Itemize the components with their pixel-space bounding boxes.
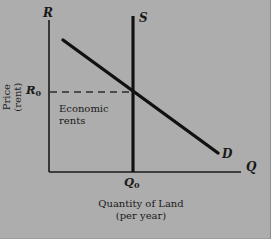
economic-rents-line2: rents: [59, 115, 135, 127]
y-axis-title: Price (rent): [1, 66, 23, 128]
equilibrium-price-label: R0: [26, 84, 41, 96]
economic-rents-figure: R Q S D R0 Q0 Price (rent) Economic rent…: [0, 0, 271, 239]
x-axis-title-line1: Quantity of Land: [46, 198, 236, 210]
x-axis-title-line2: (per year): [46, 210, 236, 222]
y-axis-title-line2: (rent): [12, 66, 23, 128]
x-axis-tip-label: Q: [246, 161, 256, 174]
equilibrium-price-letter: R: [26, 83, 36, 97]
x-axis-title: Quantity of Land (per year): [46, 198, 236, 222]
demand-curve: [63, 40, 218, 153]
y-axis-tip-label: R: [43, 7, 53, 20]
equilibrium-quantity-letter: Q: [124, 175, 134, 189]
economic-rents-annotation: Economic rents: [59, 103, 135, 127]
y-axis-title-line1: Price: [1, 66, 12, 128]
equilibrium-quantity-subscript: 0: [134, 180, 140, 190]
equilibrium-price-subscript: 0: [36, 88, 42, 98]
equilibrium-quantity-label: Q0: [124, 176, 140, 188]
demand-curve-label: D: [222, 148, 232, 161]
supply-curve-label: S: [139, 12, 148, 25]
economic-rents-line1: Economic: [59, 103, 135, 115]
